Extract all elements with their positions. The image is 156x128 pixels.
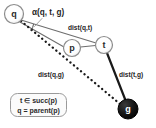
legend-line-2: q = parent(p) [17, 107, 60, 115]
graph-figure: q p t g α(q, t, g) dist(q,t) dist(q,g) d… [0, 0, 156, 128]
edge-label-dist-tg: dist(t,g) [119, 71, 143, 79]
node-q-label: q [11, 9, 17, 19]
node-q[interactable]: q [5, 5, 24, 24]
diagram-canvas: q p t g α(q, t, g) dist(q,t) dist(q,g) d… [0, 0, 156, 128]
edge-p-t [81, 46, 96, 48]
angle-alpha-label: α(q, t, g) [32, 8, 65, 17]
node-g[interactable]: g [118, 99, 138, 119]
edge-q-g [21, 21, 120, 104]
edge-label-dist-qg: dist(q,g) [38, 71, 64, 79]
node-g-label: g [125, 104, 131, 114]
node-t[interactable]: t [96, 37, 113, 54]
node-p[interactable]: p [64, 40, 81, 57]
node-p-label: p [69, 43, 75, 53]
edge-q-p [20, 22, 64, 47]
legend-line-1: t ∈ succ(p) [20, 97, 57, 105]
legend-box: t ∈ succ(p) q = parent(p) [11, 94, 67, 117]
node-t-label: t [103, 40, 106, 50]
edge-label-dist-qt: dist(q,t) [68, 24, 92, 32]
